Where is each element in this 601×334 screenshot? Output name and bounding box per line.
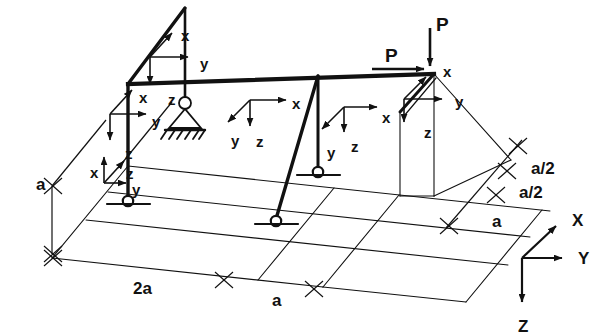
global-coordinate-triad bbox=[522, 226, 562, 302]
axis-label-z-beam-mid-left: z bbox=[256, 134, 264, 149]
global-axis-label-z: Z bbox=[518, 318, 528, 334]
main-beam bbox=[128, 74, 434, 84]
axis-label-y-inclined-column-top: y bbox=[327, 145, 335, 160]
pin-support-vertical-column bbox=[297, 167, 340, 177]
dimension-label-depth-a-half-near: a/2 bbox=[519, 184, 543, 201]
dimension-label-depth-a: a bbox=[492, 213, 501, 230]
axis-label-y-left-column-base: y bbox=[132, 182, 140, 197]
axis-label-y-left-column-top: y bbox=[152, 114, 160, 129]
load-label-horizontal: P bbox=[385, 46, 398, 65]
pin-support-left-column bbox=[107, 196, 150, 206]
global-axis-x-arrow bbox=[522, 226, 556, 258]
axis-label-z-inclined-column-top: z bbox=[351, 139, 359, 154]
axis-label-y-apex-joint: y bbox=[200, 56, 208, 71]
axis-label-z-apex-joint: z bbox=[168, 92, 176, 107]
apex-inclined-member bbox=[128, 8, 185, 84]
axis-label-x-left-column-base: x bbox=[90, 165, 98, 180]
axis-label-z-left-column-base: z bbox=[126, 166, 134, 181]
axis-label-x-inclined-column-top: x bbox=[382, 110, 390, 125]
load-label-vertical: P bbox=[436, 15, 449, 34]
global-axis-label-x: X bbox=[572, 212, 583, 229]
axis-label-x-left-column-top: x bbox=[139, 90, 147, 105]
dimension-span-ticks bbox=[44, 250, 323, 297]
axis-label-x-apex-joint: x bbox=[181, 28, 189, 43]
dimension-label-depth-a-half-far: a/2 bbox=[531, 160, 555, 177]
axis-label-z-left-column-top: z bbox=[125, 146, 133, 161]
right-joint-stub bbox=[400, 74, 434, 112]
engineering-diagram-figure: P P x y z x y z x y z x y z x y z x y z … bbox=[0, 0, 601, 334]
global-axis-label-y: Y bbox=[578, 250, 589, 267]
dimension-label-span-2a: 2a bbox=[133, 280, 152, 297]
local-axes-right-joint bbox=[404, 77, 442, 122]
dimension-label-height-a: a bbox=[36, 176, 45, 193]
dimension-depth-leader bbox=[446, 140, 522, 228]
local-axes-inclined-column-top bbox=[322, 107, 377, 132]
axis-label-x-beam-mid-left: x bbox=[292, 96, 300, 111]
local-axes-left-column-base bbox=[104, 157, 126, 183]
axis-label-x-right-joint: x bbox=[443, 64, 451, 79]
local-axes-beam-mid-left bbox=[228, 100, 286, 126]
axis-label-y-right-joint: y bbox=[455, 94, 463, 109]
dimension-label-span-a: a bbox=[272, 292, 281, 309]
axis-label-z-right-joint: z bbox=[424, 125, 432, 140]
axis-label-y-beam-mid-left: y bbox=[231, 133, 239, 148]
pin-support-inclined-column bbox=[255, 216, 298, 226]
